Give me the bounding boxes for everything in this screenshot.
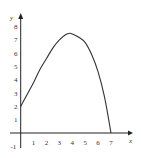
chart: y x 1234567 -112345678 <box>0 0 141 158</box>
y-tick-label: 8 <box>14 23 18 31</box>
function-curve <box>21 33 111 133</box>
x-tick-label: 1 <box>32 139 36 147</box>
y-tick-label: 5 <box>14 63 18 71</box>
x-tick-labels: 1234567 <box>32 139 113 147</box>
y-tick-label: 2 <box>14 103 18 111</box>
x-tick-label: 6 <box>96 139 100 147</box>
y-axis-label: y <box>9 14 14 22</box>
y-tick-labels: -112345678 <box>11 23 19 151</box>
y-axis <box>18 13 23 148</box>
y-tick-label: 4 <box>14 76 18 84</box>
x-axis-label: x <box>128 137 133 145</box>
x-tick-label: 3 <box>58 139 62 147</box>
y-tick-label: 7 <box>14 36 18 44</box>
y-tick-label: -1 <box>11 143 17 151</box>
y-axis-arrow-icon <box>18 13 23 19</box>
y-tick-label: 1 <box>14 116 18 124</box>
x-tick-label: 4 <box>71 139 75 147</box>
y-tick-label: 6 <box>14 50 18 58</box>
x-axis-arrow-icon <box>128 131 133 136</box>
y-tick-label: 3 <box>14 90 18 98</box>
x-tick-label: 2 <box>45 139 49 147</box>
x-tick-label: 7 <box>109 139 113 147</box>
x-axis <box>10 131 133 136</box>
x-tick-label: 5 <box>83 139 87 147</box>
